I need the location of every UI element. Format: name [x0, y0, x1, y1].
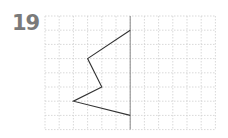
grid-diagram	[0, 0, 228, 138]
